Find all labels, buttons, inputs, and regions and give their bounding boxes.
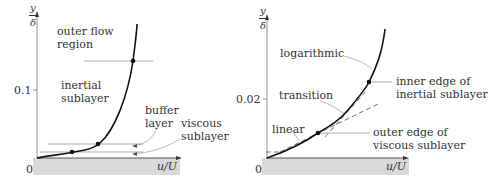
region-inertial-2: sublayer: [61, 92, 109, 105]
region-inertial-1: inertial: [61, 79, 101, 92]
region-outer-flow-1: outer flow: [57, 25, 114, 38]
region-viscous-2: sublayer: [181, 130, 229, 143]
annot-linear: linear: [272, 123, 304, 136]
annot-outer-edge-2: viscous sublayer: [373, 139, 465, 152]
y-axis-label-bottom-right: δ: [260, 19, 266, 32]
y-tick-left: 0.1: [14, 84, 32, 97]
annot-logarithmic: logarithmic: [280, 47, 344, 60]
annot-inner-edge-2: inertial sublayer: [396, 88, 488, 101]
origin-right: 0: [255, 163, 262, 176]
origin-left: 0: [26, 163, 33, 176]
y-axis-label-bottom-left: δ: [30, 16, 36, 29]
region-viscous-1: viscous: [181, 117, 222, 130]
y-axis-label-top-left: y: [30, 1, 36, 14]
annot-outer-edge-1: outer edge of: [373, 126, 448, 139]
y-tick-right: 0.02: [236, 93, 261, 106]
region-buffer-2: layer: [145, 117, 173, 130]
annot-transition: transition: [279, 89, 333, 102]
x-axis-label-right: u/U: [386, 160, 406, 173]
y-axis-label-top-right: y: [260, 4, 266, 17]
region-outer-flow-2: region: [57, 38, 93, 51]
x-axis-label-left: u/U: [157, 160, 177, 173]
annot-inner-edge-1: inner edge of: [396, 75, 470, 88]
region-buffer-1: buffer: [145, 104, 179, 117]
